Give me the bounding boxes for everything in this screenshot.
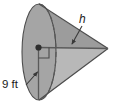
cone-diagram: 9 ft h bbox=[0, 0, 113, 111]
cone-figure-svg bbox=[0, 0, 113, 111]
radius-label: 9 ft bbox=[2, 79, 18, 91]
height-label: h bbox=[79, 13, 86, 25]
center-dot bbox=[35, 44, 41, 50]
